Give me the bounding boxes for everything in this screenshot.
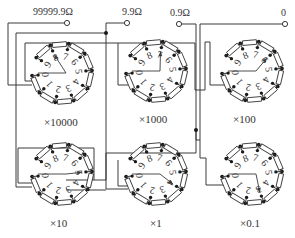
dial-number: 5 xyxy=(73,69,84,75)
multiplier-label-x10: ×10 xyxy=(50,217,68,229)
resistor-icon xyxy=(168,189,182,202)
resistor-icon xyxy=(226,146,240,159)
dial-number: 8 xyxy=(241,49,250,61)
junction-node xyxy=(48,43,52,47)
terminal-99999-9[interactable] xyxy=(64,20,69,25)
multiplier-label-x100: ×100 xyxy=(233,113,256,125)
resistor-icon xyxy=(146,143,160,149)
resistor-icon xyxy=(168,86,182,99)
wire-junction xyxy=(104,31,108,35)
dial-number: 0 xyxy=(229,173,240,179)
dial-number: 6 xyxy=(69,157,81,168)
resistor-icon xyxy=(86,72,94,87)
resistor-icon xyxy=(180,70,188,85)
resistor-icon xyxy=(74,88,88,101)
dial-x100[interactable]: 0123456789 xyxy=(220,40,284,103)
terminal-label-0-9: 0.9Ω xyxy=(170,7,190,18)
multiplier-label-x1: ×1 xyxy=(150,217,162,229)
dial-number: 2 xyxy=(245,82,252,94)
dial-number: 1 xyxy=(137,180,149,191)
resistor-icon xyxy=(125,75,135,90)
multiplier-label-x10000: ×10000 xyxy=(44,116,78,128)
dial-number: 8 xyxy=(241,152,250,164)
resistance-box-diagram: 0123456789012345678901234567890123456789… xyxy=(0,0,295,238)
dial-number: 7 xyxy=(156,152,163,164)
dial-number: 4 xyxy=(71,77,83,87)
dial-number: 1 xyxy=(43,180,55,191)
dial-number: 4 xyxy=(71,178,83,188)
dial-x10[interactable]: 0123456789 xyxy=(30,143,94,206)
resistor-icon xyxy=(226,43,240,56)
wire-segment xyxy=(16,33,106,187)
dial-number: 9 xyxy=(231,160,243,170)
junction-node xyxy=(48,144,52,148)
resistor-icon xyxy=(230,90,244,101)
resistor-icon xyxy=(125,178,135,193)
resistor-icon xyxy=(273,156,283,171)
terminal-0[interactable] xyxy=(282,21,287,26)
dial-number: 2 xyxy=(149,82,156,94)
terminal-0-9[interactable] xyxy=(176,21,181,26)
dial-number: 0 xyxy=(229,70,240,76)
resistor-icon xyxy=(242,143,256,149)
dial-x10000[interactable]: 0123456789 xyxy=(30,42,94,105)
resistor-icon xyxy=(180,173,188,188)
dial-x0-1[interactable]: 0123456789 xyxy=(220,143,284,206)
dial-number: 5 xyxy=(167,170,178,176)
dial-number: 8 xyxy=(145,152,154,164)
dial-x1[interactable]: 0123456789 xyxy=(124,143,188,206)
wire-junction xyxy=(194,128,198,132)
dial-number: 4 xyxy=(261,75,273,85)
dial-number: 3 xyxy=(64,83,73,95)
resistor-icon xyxy=(83,55,93,70)
resistor-icon xyxy=(276,173,284,188)
dial-number: 7 xyxy=(62,51,69,63)
resistor-icon xyxy=(40,92,54,103)
resistor-icon xyxy=(57,99,71,105)
resistor-icon xyxy=(242,40,256,46)
resistor-icon xyxy=(40,193,54,204)
resistor-icon xyxy=(31,77,41,92)
dial-number: 6 xyxy=(259,157,271,168)
dial-number: 4 xyxy=(261,178,273,188)
dial-x1000[interactable]: 0123456789 xyxy=(124,40,188,103)
resistor-icon xyxy=(134,193,148,204)
resistor-icon xyxy=(70,144,84,155)
resistor-icon xyxy=(177,156,187,171)
junction-node xyxy=(166,200,170,204)
resistor-icon xyxy=(36,45,50,58)
resistor-icon xyxy=(260,144,274,155)
resistor-icon xyxy=(230,193,244,204)
resistor-icon xyxy=(264,86,278,99)
resistor-icon xyxy=(52,42,66,48)
resistor-icon xyxy=(130,146,144,159)
resistor-icon xyxy=(52,143,66,149)
dial-number: 2 xyxy=(55,84,62,96)
dial-number: 0 xyxy=(39,173,50,179)
resistor-icon xyxy=(221,75,231,90)
resistor-icon xyxy=(264,189,278,202)
dial-number: 1 xyxy=(233,77,245,88)
resistor-icon xyxy=(247,97,261,103)
resistor-icon xyxy=(83,156,93,171)
terminal-9-9[interactable] xyxy=(124,20,129,25)
dial-number: 5 xyxy=(263,67,274,73)
dial-number: 8 xyxy=(145,49,154,61)
dial-number: 7 xyxy=(252,49,259,61)
dial-number: 3 xyxy=(64,184,73,196)
multiplier-label-x0-1: ×0.1 xyxy=(240,217,260,229)
dial-number: 0 xyxy=(133,70,144,76)
resistor-icon xyxy=(276,70,284,85)
dial-number: 8 xyxy=(51,152,60,164)
dial-number: 9 xyxy=(231,57,243,67)
resistor-icon xyxy=(130,43,144,56)
dial-number: 3 xyxy=(158,184,167,196)
dial-number: 6 xyxy=(163,157,175,168)
dial-number: 2 xyxy=(245,185,252,197)
dial-number: 0 xyxy=(133,173,144,179)
multiplier-label-x1000: ×1000 xyxy=(139,113,168,125)
dial-number: 2 xyxy=(55,185,62,197)
resistor-icon xyxy=(134,90,148,101)
resistor-icon xyxy=(151,200,165,206)
dial-number: 1 xyxy=(43,79,55,90)
